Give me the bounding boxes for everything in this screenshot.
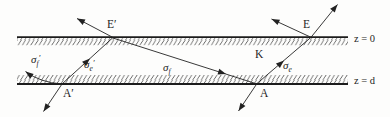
arrowhead-exit-down-left-a-prime	[41, 103, 50, 113]
hatch-band-z0	[17, 38, 348, 45]
label-point-e-prime: E′	[107, 18, 117, 30]
label-point-a-prime: A′	[63, 87, 74, 99]
label-z0: z = 0	[354, 33, 375, 44]
arrowhead-exit-up-left-e-prime	[76, 16, 86, 25]
label-sigma-f: σf	[163, 61, 171, 76]
label-zd: z = d	[354, 75, 376, 86]
label-medium-k: K	[255, 48, 264, 60]
arrowhead-exit-up-left-e	[270, 16, 280, 25]
label-point-e: E	[303, 18, 310, 30]
hatch-band-zd	[17, 75, 348, 83]
label-point-a: A	[260, 87, 269, 99]
label-sigma-e-prime: σe′	[84, 58, 95, 73]
label-sigma-e: σe	[283, 59, 292, 74]
figure-container: σf′ σe′ σf σe K E′ E A′ A z = 0 z = d	[0, 0, 390, 117]
label-sigma-f-prime: σf′	[31, 53, 41, 68]
arrowhead-exit-down-left-a	[236, 103, 245, 113]
diagram-canvas: σf′ σe′ σf σe K E′ E A′ A z = 0 z = d	[0, 0, 390, 117]
